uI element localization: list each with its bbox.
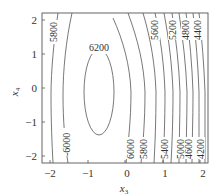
contour-label: 6000	[125, 139, 136, 159]
contour-label: -6000	[61, 133, 72, 156]
contour-chart: 2 1 0 −1 −2 −2 −1 0 1 2 x3 x4	[0, 0, 221, 196]
contour-label: 5800	[138, 139, 149, 159]
contour-label: 5600	[149, 20, 160, 40]
contour-label: 5400	[159, 139, 170, 159]
contour-label: 5200	[167, 20, 178, 40]
contour-label: 4800	[180, 20, 191, 40]
contour-labels: 5800 6200 -6000 5600 5200 4800 4400 6000…	[48, 18, 206, 159]
x-axis-label: x3	[119, 182, 129, 196]
y-tick-label: 2	[32, 14, 38, 26]
x-tick-label: 0	[124, 167, 130, 179]
x-tick-label: −2	[44, 167, 56, 179]
x-tick-label: −1	[82, 167, 94, 179]
contour-label: 6200	[89, 42, 109, 53]
x-tick-label: 2	[200, 167, 206, 179]
x-tick-label: 1	[162, 167, 168, 179]
contour-label: 4200	[195, 139, 206, 159]
y-axis-label: x4	[8, 87, 22, 97]
y-tick-label: −2	[25, 150, 37, 162]
y-tick-label: 1	[32, 48, 38, 60]
y-tick-label: −1	[25, 116, 37, 128]
contour-label: 5800	[48, 22, 59, 42]
y-tick-label: 0	[32, 82, 38, 94]
contour-label: 4600	[183, 139, 194, 159]
contour-label: 4400	[192, 20, 203, 40]
